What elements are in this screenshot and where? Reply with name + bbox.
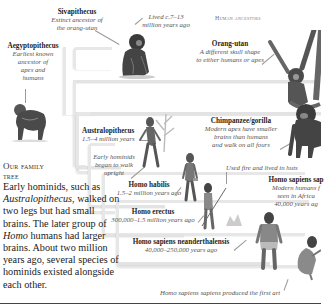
chimp-gorilla-desc-2: brains than humans xyxy=(194,133,288,141)
intro-body: Early hominids, such as Australopithecus… xyxy=(3,181,121,291)
sivapithecus-note-1: Lived c.7–13 xyxy=(140,13,192,21)
page-header: Human ancestors xyxy=(215,15,261,21)
australopithecus-note-1: Early hominids xyxy=(88,153,140,161)
neanderthal-age: 40,000–250,000 years ago xyxy=(116,246,246,254)
homo-sapiens-sapiens-desc-3: 40,000 years ag xyxy=(256,200,328,208)
intro-heading-2: tree xyxy=(3,171,121,181)
branch-sivapithecus xyxy=(73,47,112,70)
bottom-rule xyxy=(0,303,321,304)
intro-body-1: Early hominids, such as xyxy=(3,181,100,192)
homo-habilis-name: Homo habilis xyxy=(114,181,184,189)
intro-block: Our family tree Early hominids, such as … xyxy=(3,161,121,291)
australopithecus-label: Australopithecus 1.5–4 million years xyxy=(82,127,135,143)
chimp-gorilla-desc-1: Modern apes have smaller xyxy=(194,125,288,133)
sivapithecus-name: Sivapithecus xyxy=(42,8,112,16)
aegyptopithecus-desc-1: Earliest known xyxy=(0,50,66,58)
intro-heading-1: Our family xyxy=(3,161,121,171)
intro-body-italic-2: Homo xyxy=(3,230,28,241)
aegyptopithecus-label: Aegyptopithecus Earliest known ancestor … xyxy=(0,42,66,82)
chimp-gorilla-label: Chimpanzee/gorilla Modern apes have smal… xyxy=(194,117,288,149)
neanderthal-illustration xyxy=(254,212,284,270)
australopithecus-name: Australopithecus xyxy=(82,127,135,135)
homo-sapiens-sapiens-illustration xyxy=(290,236,321,282)
homo-sapiens-sapiens-name: Homo sapiens sap xyxy=(256,176,328,184)
branch-neanderthal-bar xyxy=(118,262,270,265)
australopithecus-illustration xyxy=(138,112,178,177)
aegyptopithecus-name: Aegyptopithecus xyxy=(0,42,66,50)
homo-habilis-label: Homo habilis 1.5–2 million years ago xyxy=(114,181,184,197)
first-art-note: Homo sapiens sapiens produced the first … xyxy=(160,289,280,297)
chimp-gorilla-name: Chimpanzee/gorilla xyxy=(194,117,288,125)
homo-sapiens-sapiens-desc-2: seen in Africa xyxy=(256,192,328,200)
first-art-leader xyxy=(284,279,289,291)
orangutan-desc-1: A different skull shape xyxy=(190,48,270,56)
homo-erectus-note: Used fire and lived in huts xyxy=(226,164,298,172)
sivapithecus-note: Lived c.7–13 million years ago xyxy=(140,13,192,29)
aegyptopithecus-desc-4: humans xyxy=(0,74,66,82)
aegyptopithecus-illustration xyxy=(8,100,52,142)
sivapithecus-note-2: million years ago xyxy=(140,21,192,29)
intro-body-italic: Australopithecus xyxy=(3,193,72,204)
sivapithecus-desc-1: Extinct ancestor of xyxy=(42,16,112,24)
homo-erectus-illustration xyxy=(200,182,250,232)
chimp-gorilla-desc-3: and walk on all fours xyxy=(194,141,288,149)
homo-habilis-illustration xyxy=(180,152,202,202)
gorilla-illustration xyxy=(288,102,321,160)
sivapithecus-label: Sivapithecus Extinct ancestor of the ora… xyxy=(42,8,112,32)
orangutan-label: Orang-utan A different skull shape to ei… xyxy=(190,40,270,64)
homo-sapiens-sapiens-desc-1: Modern humans f xyxy=(256,184,328,192)
orangutan-name: Orang-utan xyxy=(190,40,270,48)
neanderthal-label: Homo sapiens neanderthalensis 40,000–250… xyxy=(116,238,246,254)
orangutan-desc-2: to either humans or apes xyxy=(190,56,270,64)
australopithecus-age: 1.5–4 million years xyxy=(82,135,135,143)
homo-habilis-age: 1.5–2 million years ago xyxy=(114,189,184,197)
aegyptopithecus-desc-2: ancestor of xyxy=(0,58,66,66)
homo-sapiens-sapiens-label: Homo sapiens sap Modern humans f seen in… xyxy=(256,176,328,208)
sivapithecus-desc-2: the orang-utan xyxy=(42,24,112,32)
aegyptopithecus-desc-3: apes and xyxy=(0,66,66,74)
sivapithecus-illustration xyxy=(113,30,158,80)
neanderthal-name: Homo sapiens neanderthalensis xyxy=(116,238,246,246)
